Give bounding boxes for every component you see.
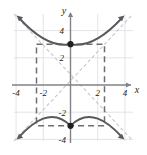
y-tick-label-4: 4 [60, 26, 65, 36]
graph-canvas: -4 -2 2 4 4 2 -2 -4 x y [0, 0, 147, 155]
y-tick-label--4: -4 [59, 135, 67, 145]
x-axis-label: x [134, 84, 140, 95]
x-tick-label--2: -2 [40, 88, 48, 98]
vertex-dot-upper [67, 41, 73, 47]
x-tick-label-2: 2 [95, 88, 100, 98]
x-tick-label--4: -4 [12, 88, 20, 98]
y-tick-label--2: -2 [59, 108, 67, 118]
x-tick-label-4: 4 [123, 88, 128, 98]
hyperbola-figure: -4 -2 2 4 4 2 -2 -4 x y [0, 0, 147, 155]
vertex-dot-lower [67, 123, 73, 129]
y-axis-label: y [61, 5, 67, 16]
y-tick-label-2: 2 [60, 53, 65, 63]
